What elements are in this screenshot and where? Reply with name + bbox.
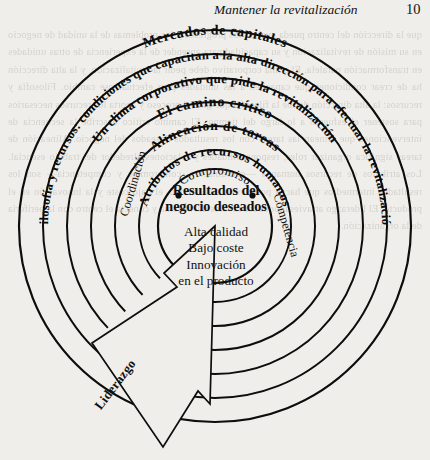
liderazgo-wedge bbox=[92, 226, 215, 447]
compromiso-label-text: Compromiso bbox=[176, 163, 254, 188]
running-head: Mantener la revitalización 10 bbox=[0, 0, 430, 22]
ring-4-label: El camino crítico bbox=[155, 94, 276, 122]
bullet-dot-left bbox=[175, 192, 181, 198]
concentric-circles-figure: Mercados de capitales Filosofía y recurs… bbox=[0, 0, 430, 460]
page-number: 10 bbox=[406, 1, 421, 18]
running-head-title: Mantener la revitalización bbox=[214, 2, 357, 18]
bullet-dot-right bbox=[249, 192, 255, 198]
compromiso-label: Compromiso bbox=[176, 163, 254, 188]
ring-4-label-text: El camino crítico bbox=[155, 94, 276, 122]
